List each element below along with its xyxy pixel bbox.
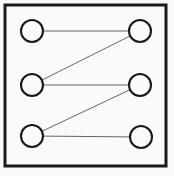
- graph-node: [129, 20, 151, 42]
- figure-container: [0, 0, 174, 176]
- graph-node: [21, 20, 43, 42]
- bipartite-graph-canvas: [0, 0, 174, 176]
- graph-node: [130, 126, 152, 148]
- graph-node: [129, 74, 151, 96]
- graph-node: [21, 74, 43, 96]
- graph-node: [21, 125, 43, 147]
